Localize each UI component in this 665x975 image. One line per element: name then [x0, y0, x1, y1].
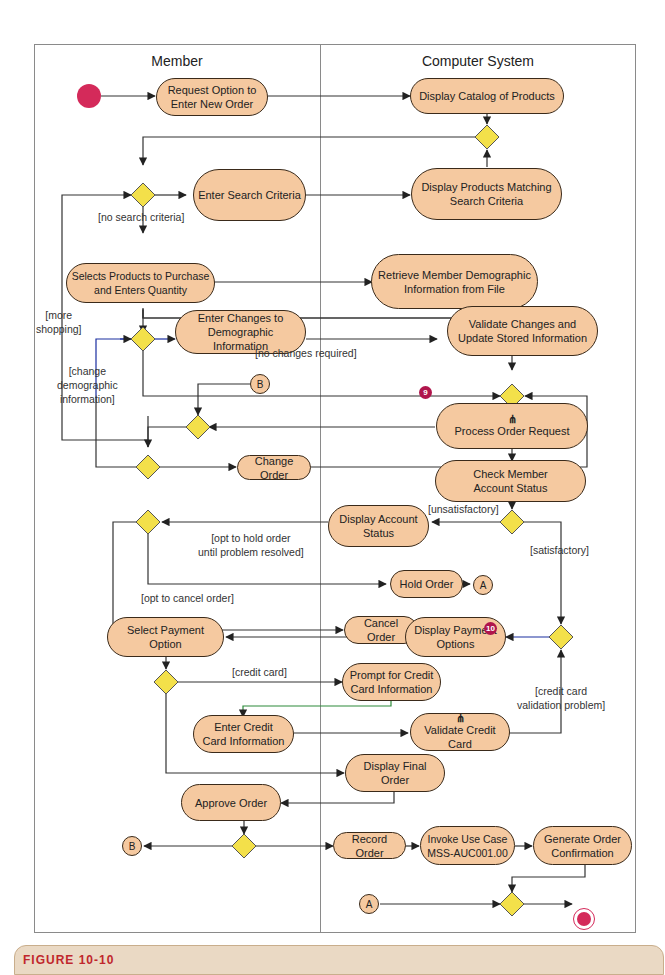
- decision-payment-merge: [549, 625, 573, 649]
- node-validate-changes[interactable]: Validate Changes and Update Stored Infor…: [447, 306, 598, 356]
- guard-unsatisfactory: [unsatisfactory]: [428, 502, 499, 516]
- node-validate-credit-label: Validate Credit Card: [415, 723, 505, 751]
- node-enter-credit[interactable]: Enter Credit Card Information: [193, 715, 294, 753]
- guard-change-demographic: [change demographic information]: [57, 364, 118, 406]
- connector-a-bottom: A: [359, 894, 379, 914]
- connector-b-top: B: [250, 374, 270, 394]
- decision-catalog: [475, 125, 499, 149]
- guard-no-search: [no search criteria]: [98, 210, 184, 224]
- node-record-order[interactable]: Record Order: [333, 832, 406, 859]
- node-validate-credit[interactable]: ⋔ Validate Credit Card: [410, 713, 510, 751]
- node-process-order-label: Process Order Request: [455, 424, 570, 438]
- decision-approve: [232, 834, 256, 858]
- node-display-account[interactable]: Display Account Status: [328, 505, 429, 547]
- decision-payment-type: [154, 670, 178, 694]
- figure-caption-label: FIGURE 10-10: [23, 953, 114, 967]
- node-selects-products[interactable]: Selects Products to Purchase and Enters …: [66, 263, 215, 303]
- node-display-final[interactable]: Display Final Order: [345, 754, 445, 792]
- node-approve-order[interactable]: Approve Order: [181, 784, 281, 821]
- figure-caption: FIGURE 10-10: [14, 945, 664, 975]
- decision-change-order: [136, 455, 160, 479]
- node-display-matching[interactable]: Display Products Matching Search Criteri…: [411, 168, 562, 220]
- node-change-order[interactable]: Change Order: [237, 455, 311, 480]
- node-hold-order[interactable]: Hold Order: [390, 570, 463, 598]
- guard-more-shopping: [more shopping]: [36, 308, 82, 336]
- connector-b-bottom: B: [122, 836, 142, 856]
- decision-search: [131, 183, 155, 207]
- decision-account: [500, 510, 524, 534]
- decision-final-merge: [500, 892, 524, 916]
- initial-node: [77, 84, 101, 108]
- fork-icon: ⋔: [508, 414, 517, 424]
- guard-opt-hold: [opt to hold order until problem resolve…: [198, 531, 304, 559]
- final-node: [573, 908, 595, 930]
- guard-no-changes: [no changes required]: [255, 346, 357, 360]
- decision-hold-cancel: [136, 510, 160, 534]
- decision-demographic: [131, 327, 155, 351]
- fork-icon: ⋔: [456, 713, 465, 723]
- step-badge-9: 9: [419, 386, 432, 399]
- node-enter-search[interactable]: Enter Search Criteria: [193, 169, 306, 221]
- guard-satisfactory: [satisfactory]: [530, 543, 589, 557]
- node-generate-confirmation[interactable]: Generate Order Confirmation: [533, 826, 632, 865]
- node-prompt-credit[interactable]: Prompt for Credit Card Information: [342, 663, 441, 701]
- node-invoke-use-case[interactable]: Invoke Use Case MSS-AUC001.00: [420, 826, 515, 865]
- decision-merge-b: [186, 415, 210, 439]
- guard-credit-card: [credit card]: [232, 665, 287, 679]
- guard-cc-problem: [credit card validation problem]: [517, 684, 605, 712]
- node-retrieve-member[interactable]: Retrieve Member Demographic Information …: [371, 254, 538, 309]
- node-display-catalog[interactable]: Display Catalog of Products: [410, 78, 564, 114]
- node-check-member[interactable]: Check Member Account Status: [435, 460, 586, 502]
- guard-opt-cancel: [opt to cancel order]: [141, 591, 234, 605]
- node-process-order[interactable]: ⋔ Process Order Request: [436, 403, 588, 449]
- node-select-payment[interactable]: Select Payment Option: [107, 617, 224, 657]
- node-request-option[interactable]: Request Option to Enter New Order: [156, 78, 268, 116]
- connector-a-hold: A: [473, 575, 493, 595]
- step-badge-10: 10: [484, 622, 497, 635]
